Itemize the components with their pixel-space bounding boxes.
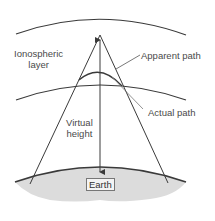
virtual-height-label: Virtual height — [66, 117, 93, 139]
virtual-label-line2: height — [66, 128, 93, 139]
actual-path-leader — [112, 77, 143, 109]
earth-label: Earth — [86, 178, 115, 191]
apparent-path-leader — [116, 55, 140, 69]
actual-path-label: Actual path — [148, 107, 196, 118]
ionospheric-layer-label: Ionospheric layer — [14, 48, 63, 70]
ionospheric-label-line2: layer — [14, 59, 63, 70]
ionosphere-lower-boundary — [16, 85, 186, 100]
ionosphere-upper-boundary — [16, 19, 186, 35]
ionospheric-label-line1: Ionospheric — [14, 48, 63, 59]
virtual-label-line1: Virtual — [66, 117, 93, 128]
apparent-path-label: Apparent path — [141, 50, 201, 61]
